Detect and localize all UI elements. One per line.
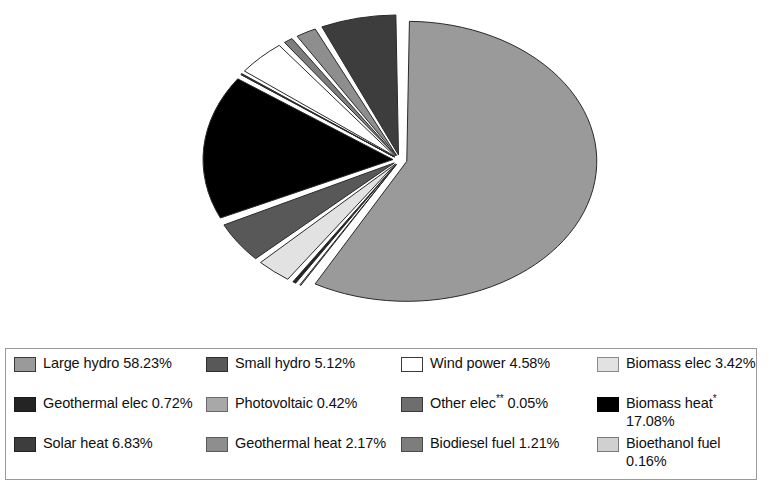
legend-label-wind-power: Wind power 4.58% (430, 355, 550, 373)
legend-item-bioethanol-fuel[interactable]: Bioethanol fuel 0.16% (597, 435, 764, 475)
legend-label-geothermal-heat: Geothermal heat 2.17% (235, 435, 386, 453)
pie-chart-plot-area: Large hydro 58.23%Photovoltaic 0.42%Geot… (0, 0, 778, 335)
legend-item-geothermal-elec[interactable]: Geothermal elec 0.72% (14, 395, 206, 435)
legend-swatch-geothermal-elec (14, 397, 36, 412)
legend-swatch-biomass-elec (597, 357, 619, 372)
legend-swatch-photovoltaic (206, 397, 228, 412)
legend-item-biomass-heat[interactable]: Biomass heat* 17.08% (597, 395, 764, 435)
legend-item-wind-power[interactable]: Wind power 4.58% (401, 355, 597, 395)
legend-swatch-wind-power (401, 357, 423, 372)
legend-label-biodiesel-fuel: Biodiesel fuel 1.21% (430, 435, 559, 453)
legend-item-photovoltaic[interactable]: Photovoltaic 0.42% (206, 395, 401, 435)
legend-item-small-hydro[interactable]: Small hydro 5.12% (206, 355, 401, 395)
legend-label-large-hydro: Large hydro 58.23% (43, 355, 172, 373)
legend-swatch-large-hydro (14, 357, 36, 372)
legend-swatch-biodiesel-fuel (401, 437, 423, 452)
legend-item-solar-heat[interactable]: Solar heat 6.83% (14, 435, 206, 475)
pie-chart-svg: Large hydro 58.23%Photovoltaic 0.42%Geot… (0, 0, 778, 335)
legend-label-biomass-elec: Biomass elec 3.42% (626, 355, 756, 373)
legend-label-photovoltaic: Photovoltaic 0.42% (235, 395, 357, 413)
pie-slice-group: Large hydro 58.23%Photovoltaic 0.42%Geot… (203, 15, 597, 301)
legend-swatch-biomass-heat (597, 397, 619, 412)
pie-chart-figure: Large hydro 58.23%Photovoltaic 0.42%Geot… (0, 0, 778, 493)
legend-item-large-hydro[interactable]: Large hydro 58.23% (14, 355, 206, 395)
legend-label-bioethanol-fuel: Bioethanol fuel 0.16% (626, 435, 764, 470)
legend-item-biomass-elec[interactable]: Biomass elec 3.42% (597, 355, 764, 395)
legend-item-other-elec[interactable]: Other elec** 0.05% (401, 395, 597, 435)
legend-label-geothermal-elec: Geothermal elec 0.72% (43, 395, 192, 413)
legend-label-solar-heat: Solar heat 6.83% (43, 435, 153, 453)
legend-label-other-elec: Other elec** 0.05% (430, 395, 548, 413)
legend-swatch-small-hydro (206, 357, 228, 372)
legend-swatch-other-elec (401, 397, 423, 412)
legend-swatch-geothermal-heat (206, 437, 228, 452)
legend-label-biomass-heat: Biomass heat* 17.08% (626, 395, 764, 430)
legend-item-biodiesel-fuel[interactable]: Biodiesel fuel 1.21% (401, 435, 597, 475)
legend-label-small-hydro: Small hydro 5.12% (235, 355, 355, 373)
chart-legend: Large hydro 58.23% Small hydro 5.12% Win… (5, 348, 757, 480)
legend-grid: Large hydro 58.23% Small hydro 5.12% Win… (6, 349, 756, 479)
legend-swatch-bioethanol-fuel (597, 437, 619, 452)
legend-swatch-solar-heat (14, 437, 36, 452)
legend-item-geothermal-heat[interactable]: Geothermal heat 2.17% (206, 435, 401, 475)
